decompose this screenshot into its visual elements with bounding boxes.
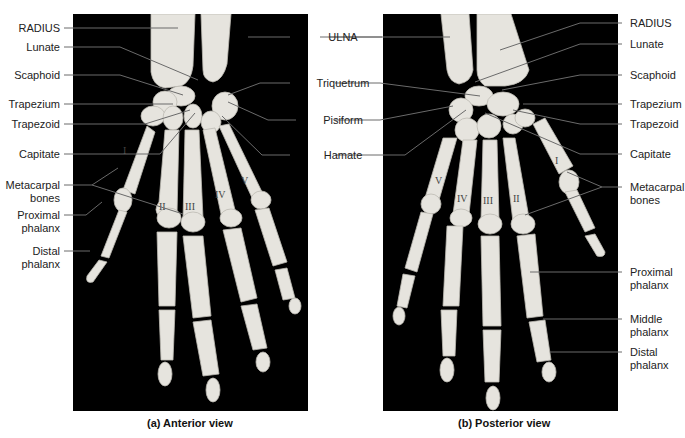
label-pisiform: Pisiform bbox=[310, 114, 376, 127]
numeral-i: I bbox=[555, 155, 558, 166]
label-line-1: Distal bbox=[630, 346, 669, 359]
label-lunate-left: Lunate bbox=[26, 41, 60, 54]
label-line-1: Metacarpal bbox=[6, 179, 60, 192]
label-hamate: Hamate bbox=[310, 149, 376, 162]
numeral-iv: IV bbox=[457, 193, 468, 204]
posterior-view-photo: V IV III II I bbox=[383, 14, 618, 411]
label-proximal-phalanx-right: Proximal phalanx bbox=[630, 266, 673, 292]
caption-anterior-view: (a) Anterior view bbox=[147, 417, 233, 429]
numeral-iv: IV bbox=[215, 189, 226, 200]
label-middle-phalanx-right: Middle phalanx bbox=[630, 313, 669, 339]
label-line-1: Distal bbox=[21, 245, 60, 258]
label-radius-right: RADIUS bbox=[630, 17, 672, 30]
label-trapezium-right: Trapezium bbox=[630, 98, 682, 111]
hand-skeleton-posterior: V IV III II I bbox=[383, 14, 618, 411]
numeral-ii: II bbox=[513, 193, 520, 204]
label-radius-left: RADIUS bbox=[18, 22, 60, 35]
anterior-view-photo: I II III IV V bbox=[73, 14, 308, 411]
numeral-iii: III bbox=[185, 201, 195, 212]
label-line-1: Metacarpal bbox=[630, 181, 684, 194]
label-capitate-left: Capitate bbox=[19, 148, 60, 161]
label-line-2: bones bbox=[6, 192, 60, 205]
label-metacarpal-bones-left: Metacarpal bones bbox=[6, 179, 60, 205]
label-line-1: Proximal bbox=[17, 209, 60, 222]
label-line-1: Middle bbox=[630, 313, 669, 326]
label-scaphoid-left: Scaphoid bbox=[14, 69, 60, 82]
label-metacarpal-bones-right: Metacarpal bones bbox=[630, 181, 684, 207]
label-line-2: bones bbox=[630, 194, 684, 207]
numeral-v: V bbox=[435, 175, 443, 186]
label-ulna: ULNA bbox=[310, 31, 376, 44]
numeral-v: V bbox=[241, 175, 249, 186]
label-line-2: phalanx bbox=[630, 359, 669, 372]
label-capitate-right: Capitate bbox=[630, 148, 671, 161]
hand-skeleton-anterior: I II III IV V bbox=[73, 14, 308, 411]
label-trapezoid-right: Trapezoid bbox=[630, 118, 679, 131]
label-line-1: Proximal bbox=[630, 266, 673, 279]
label-line-2: phalanx bbox=[630, 279, 673, 292]
label-proximal-phalanx-left: Proximal phalanx bbox=[17, 209, 60, 235]
label-distal-phalanx-left: Distal phalanx bbox=[21, 245, 60, 271]
caption-posterior-view: (b) Posterior view bbox=[458, 417, 550, 429]
label-trapezoid-left: Trapezoid bbox=[11, 118, 60, 131]
label-line-2: phalanx bbox=[17, 222, 60, 235]
label-scaphoid-right: Scaphoid bbox=[630, 69, 676, 82]
numeral-ii: II bbox=[159, 201, 166, 212]
label-lunate-right: Lunate bbox=[630, 38, 664, 51]
label-triquetrum: Triquetrum bbox=[310, 77, 376, 90]
numeral-i: I bbox=[123, 145, 126, 156]
label-trapezium-left: Trapezium bbox=[8, 98, 60, 111]
label-line-2: phalanx bbox=[630, 326, 669, 339]
label-line-2: phalanx bbox=[21, 258, 60, 271]
label-distal-phalanx-right: Distal phalanx bbox=[630, 346, 669, 372]
numeral-iii: III bbox=[483, 195, 493, 206]
